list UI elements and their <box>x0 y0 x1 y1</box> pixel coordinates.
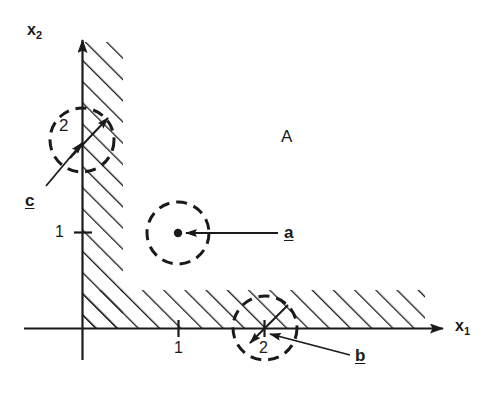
region-label-A: A <box>281 128 292 145</box>
y-axis-tick-label-1: 1 <box>55 224 64 240</box>
vector-label-a[interactable]: a <box>284 224 293 241</box>
x-axis-label: x1 <box>455 318 470 337</box>
circle-a-center-dot <box>174 229 182 237</box>
x-axis-label-text: x <box>455 317 464 334</box>
diagram-svg <box>0 0 497 394</box>
y-axis-label-subscript: 2 <box>36 29 42 41</box>
leader-line-b <box>270 334 350 355</box>
x-axis-tick-label-2: 2 <box>259 340 268 356</box>
vector-label-b[interactable]: b <box>355 347 365 364</box>
x-axis-tick-label-1: 1 <box>174 340 183 356</box>
x-axis-label-subscript: 1 <box>464 325 470 337</box>
vector-label-c[interactable]: c <box>25 192 34 209</box>
hatched-region-vertical-band <box>83 42 123 328</box>
figure-canvas: x2 x1 1 1 2 A 2 c a b <box>0 0 497 394</box>
circle-c-radius-label: 2 <box>59 117 68 134</box>
y-axis-label-text: x <box>27 21 36 38</box>
hatched-region-horizontal-band <box>83 290 425 328</box>
y-axis-label: x2 <box>27 22 42 41</box>
